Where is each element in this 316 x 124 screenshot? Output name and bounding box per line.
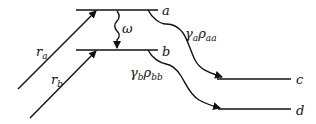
pump-a-label: ra	[36, 44, 48, 61]
coupling-label: ω	[122, 21, 133, 36]
level-b-label: b	[162, 44, 170, 59]
energy-level-diagram: a b c d ra rb ω γaρaa γbρbb	[0, 0, 316, 124]
pump-b-label: rb	[51, 72, 63, 89]
decay-b-label: γbρbb	[130, 65, 163, 82]
coupling-arrow	[115, 11, 120, 48]
pump-b-arrow	[30, 51, 96, 118]
level-d-label: d	[296, 103, 304, 118]
decay-a-label: γaρaa	[185, 26, 217, 43]
decay-a-arrow	[148, 10, 222, 77]
level-c-label: c	[296, 72, 304, 87]
level-a-label: a	[162, 3, 170, 18]
